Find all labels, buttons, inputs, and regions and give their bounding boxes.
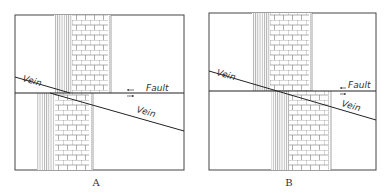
panel-a: Vein Fault Vein A bbox=[15, 15, 184, 188]
panel-b: Vein Fault Vein B bbox=[209, 13, 376, 188]
lower-strata-b bbox=[271, 91, 331, 170]
fault-diagram: Vein Fault Vein A Vein Fault Vein bbox=[0, 0, 386, 195]
upper-strata-b bbox=[252, 13, 312, 91]
upper-strata-a bbox=[54, 15, 111, 93]
caption-a: A bbox=[91, 177, 100, 188]
caption-b: B bbox=[285, 177, 292, 188]
fault-label-b: Fault bbox=[348, 80, 371, 90]
fault-label-a: Fault bbox=[146, 83, 169, 93]
lower-strata-a bbox=[37, 93, 93, 170]
